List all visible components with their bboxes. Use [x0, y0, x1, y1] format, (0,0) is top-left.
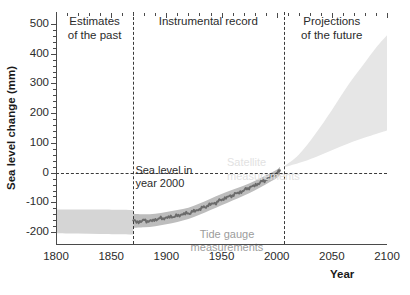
region-label-estimates-of-the-past: Estimatesof the past [68, 14, 122, 43]
sea-level-change-figure: Sea level change (mm) Year -200-10001002… [0, 0, 410, 295]
x-axis-title: Year [330, 268, 354, 280]
y-tick-label: 300 [30, 78, 49, 90]
plot-area: -200-10001002003004005001800185019001950… [56, 12, 387, 244]
x-tick-label: 2050 [319, 251, 345, 263]
x-tick-minor [365, 13, 366, 16]
annotation-satellite-measurements: Satellitemeasurements [227, 156, 300, 184]
x-tick-minor [376, 13, 377, 16]
x-tick-minor [299, 13, 300, 16]
y-tick-label: -200 [26, 226, 49, 238]
zero-sea-level [56, 173, 387, 174]
y-axis-title-text: Sea level change (mm) [5, 66, 17, 190]
x-tick-label: 1850 [98, 251, 124, 263]
y-tick-label: 0 [43, 167, 49, 179]
x-tick-label: 1900 [154, 251, 180, 263]
x-tick [277, 13, 278, 18]
x-tick-minor [288, 13, 289, 16]
y-tick-label: 100 [30, 137, 49, 149]
y-axis-title: Sea level change (mm) [3, 12, 19, 244]
x-tick-minor [155, 13, 156, 16]
region-label-instrumental-record: Instrumental record [159, 14, 258, 28]
x-tick-label: 1800 [43, 251, 69, 263]
annotation-tide-gauge-measurements: Tide gaugemeasurements [191, 228, 264, 256]
proxy-estimates-band [56, 209, 133, 234]
x-axis-line [56, 244, 387, 245]
x-tick-minor [122, 13, 123, 16]
x-tick-label: 2000 [264, 251, 290, 263]
x-tick-minor [133, 13, 134, 16]
x-tick-label: 2100 [374, 251, 400, 263]
y-tick-label: 200 [30, 107, 49, 119]
projection-start [284, 12, 285, 244]
chart-data-layer [56, 12, 387, 244]
y-axis-line [56, 12, 57, 244]
x-tick [387, 13, 388, 18]
y-tick-label: -100 [26, 197, 49, 209]
region-label-projections-of-the-future: Projectionsof the future [301, 14, 362, 43]
y-tick-label: 400 [30, 48, 49, 60]
y-tick-label: 500 [30, 18, 49, 30]
x-tick-minor [266, 13, 267, 16]
x-tick-minor [144, 13, 145, 16]
annotation-sea-level-year-2000: Sea level inyear 2000 [135, 164, 192, 192]
instrumental-record-start [133, 12, 134, 244]
projection-cone [284, 35, 387, 167]
